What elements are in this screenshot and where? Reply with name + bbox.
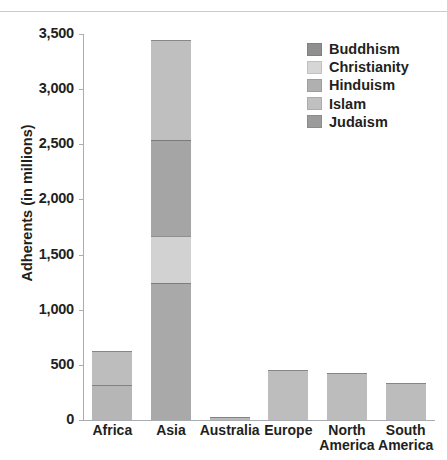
legend-label: Christianity <box>329 59 409 75</box>
bar-europe[interactable] <box>268 370 308 420</box>
y-axis-tick-label: 500 <box>0 356 74 372</box>
bar-segment-buddhism[interactable] <box>151 140 191 236</box>
bar-segment-christianity[interactable] <box>210 417 250 420</box>
y-axis-tick-label: 0 <box>0 411 74 427</box>
x-axis-label-south-america: SouthAmerica <box>361 423 447 453</box>
bar-australia[interactable] <box>210 417 250 420</box>
y-axis-tick-labels: 05001,0001,5002,0002,5003,0003,500 <box>0 0 78 460</box>
bar-segment-christianity[interactable] <box>268 370 308 420</box>
legend-label: Hinduism <box>329 77 395 93</box>
x-axis-line <box>83 420 435 421</box>
legend-label: Buddhism <box>329 41 400 57</box>
bar-asia[interactable] <box>151 40 191 420</box>
y-axis-tick-label: 1,500 <box>0 246 74 262</box>
y-axis-tick-label: 1,000 <box>0 301 74 317</box>
chart-legend: BuddhismChristianityHinduismIslamJudaism <box>307 40 442 131</box>
bar-north-america[interactable] <box>327 373 367 420</box>
bar-segment-hinduism[interactable] <box>151 236 191 283</box>
bar-africa[interactable] <box>92 351 132 420</box>
y-axis-tick-label: 3,000 <box>0 80 74 96</box>
bar-segment-christianity[interactable] <box>92 351 132 385</box>
legend-label: Judaism <box>329 114 388 130</box>
legend-swatch-icon <box>307 43 322 56</box>
legend-item-buddhism[interactable]: Buddhism <box>307 40 442 58</box>
y-axis-tick-label: 3,500 <box>0 25 74 41</box>
legend-swatch-icon <box>307 115 322 128</box>
legend-item-hinduism[interactable]: Hinduism <box>307 76 442 94</box>
y-axis-tick-label: 2,500 <box>0 135 74 151</box>
bar-segment-christianity[interactable] <box>151 40 191 140</box>
y-axis-tick-label: 2,000 <box>0 190 74 206</box>
bar-segment-christianity[interactable] <box>386 383 426 420</box>
legend-item-judaism[interactable]: Judaism <box>307 113 442 131</box>
legend-label: Islam <box>329 96 366 112</box>
legend-swatch-icon <box>307 61 322 74</box>
bar-south-america[interactable] <box>386 383 426 420</box>
bar-segment-christianity[interactable] <box>327 373 367 420</box>
legend-item-christianity[interactable]: Christianity <box>307 58 442 76</box>
legend-swatch-icon <box>307 79 322 92</box>
bar-segment-islam[interactable] <box>92 385 132 420</box>
x-axis-category-labels: AfricaAsiaAustraliaEuropeNorthAmericaSou… <box>83 423 435 460</box>
bar-segment-islam[interactable] <box>151 283 191 420</box>
chart-container: Adherents (in millions) 05001,0001,5002,… <box>0 0 447 460</box>
legend-item-islam[interactable]: Islam <box>307 95 442 113</box>
legend-swatch-icon <box>307 97 322 110</box>
